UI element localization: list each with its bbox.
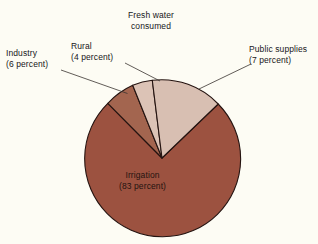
- slice-label-rural-value: (4 percent): [71, 52, 113, 63]
- slice-label-industry-name: Industry: [6, 48, 48, 59]
- leader-line-public-supplies: [199, 64, 251, 89]
- slice-label-irrigation-value: (83 percent): [119, 181, 166, 192]
- slice-label-public-supplies: Public supplies (7 percent): [249, 44, 307, 65]
- leader-line-rural: [125, 63, 160, 81]
- slice-label-public-supplies-value: (7 percent): [249, 55, 307, 66]
- slice-label-industry: Industry (6 percent): [6, 48, 48, 69]
- slice-label-public-supplies-name: Public supplies: [249, 44, 307, 55]
- slice-label-rural-name: Rural: [71, 41, 113, 52]
- pie-chart: [0, 0, 318, 244]
- slice-label-industry-value: (6 percent): [6, 59, 48, 70]
- chart-title: Fresh water consumed: [128, 10, 174, 31]
- slice-label-rural: Rural (4 percent): [71, 41, 113, 62]
- chart-title-line-2: consumed: [128, 21, 174, 32]
- chart-title-line-1: Fresh water: [128, 10, 174, 21]
- slice-label-irrigation: Irrigation (83 percent): [119, 170, 166, 191]
- leader-line-industry: [61, 70, 128, 94]
- slice-label-irrigation-name: Irrigation: [119, 170, 166, 181]
- figure-fresh-water-consumed: Fresh water consumed Industry (6 percent…: [0, 0, 318, 244]
